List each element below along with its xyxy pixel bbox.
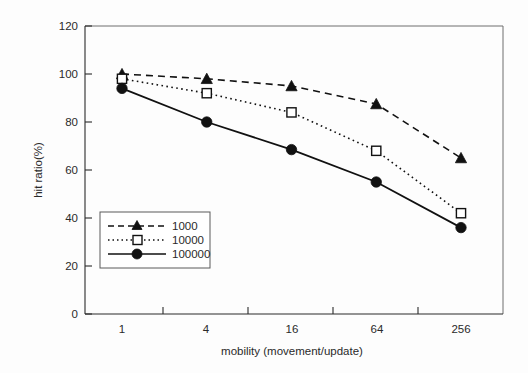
data-point-circle — [456, 222, 466, 232]
y-axis-title: hit ratio(%) — [32, 142, 44, 198]
x-axis — [85, 307, 503, 314]
data-point-circle — [117, 83, 127, 93]
y-tick-labels: 0 20 40 60 80 100 120 — [59, 20, 78, 320]
legend-label-10000: 10000 — [172, 234, 204, 246]
y-tick-label-20: 20 — [65, 260, 78, 272]
y-tick-label-100: 100 — [59, 68, 78, 80]
x-tick-label-1: 1 — [119, 323, 125, 335]
data-point-square — [287, 108, 296, 117]
data-point-square — [202, 89, 211, 98]
square-open-icon — [133, 236, 142, 245]
data-point-square — [117, 74, 126, 83]
data-point-square — [372, 146, 381, 155]
x-tick-label-16: 16 — [286, 323, 299, 335]
circle-filled-icon — [132, 249, 142, 259]
y-tick-label-40: 40 — [65, 212, 78, 224]
y-tick-label-120: 120 — [59, 20, 78, 32]
y-axis — [85, 26, 92, 314]
data-point-triangle — [455, 152, 466, 162]
data-point-circle — [202, 117, 212, 127]
data-point-circle — [371, 177, 381, 187]
x-tick-label-256: 256 — [451, 323, 470, 335]
data-point-square — [456, 209, 465, 218]
data-point-triangle — [286, 80, 297, 90]
legend-label-1000: 1000 — [172, 220, 198, 232]
chart-figure: 0 20 40 60 80 100 120 hit ratio(%) 1 4 1… — [0, 0, 528, 373]
legend: 1000 10000 100000 — [100, 212, 210, 268]
series-layer — [116, 68, 466, 232]
chart-canvas: 0 20 40 60 80 100 120 hit ratio(%) 1 4 1… — [0, 0, 528, 373]
legend-label-100000: 100000 — [172, 248, 210, 260]
x-tick-labels: 1 4 16 64 256 — [119, 323, 471, 335]
x-tick-label-4: 4 — [203, 323, 210, 335]
y-tick-label-80: 80 — [65, 116, 78, 128]
x-tick-label-64: 64 — [371, 323, 384, 335]
y-tick-label-60: 60 — [65, 164, 78, 176]
y-tick-label-0: 0 — [72, 308, 78, 320]
series-100000 — [117, 83, 466, 233]
data-point-circle — [286, 144, 296, 154]
plot-frame — [85, 26, 503, 314]
x-axis-title: mobility (movement/update) — [221, 345, 363, 357]
